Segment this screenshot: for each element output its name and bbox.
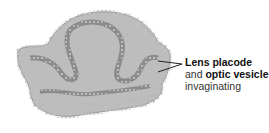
label-optic-vesicle: optic vesicle [205,68,268,80]
annotation-label: Lens placode and optic vesicle invaginat… [185,56,268,92]
label-and: and [185,68,205,80]
label-lens-placode: Lens placode [185,56,252,68]
label-invaginating: invaginating [185,80,268,92]
